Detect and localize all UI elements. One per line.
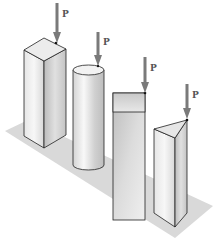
- load-label-2: P: [103, 37, 110, 47]
- load-label-3: P: [150, 63, 157, 73]
- load-arrow-1: P: [53, 3, 69, 43]
- square-prism-column: [24, 38, 66, 148]
- load-arrow-2: P: [94, 32, 110, 66]
- cylinder-column: [73, 65, 104, 170]
- columns-diagram: P P P P: [0, 0, 216, 244]
- load-label-1: P: [62, 9, 69, 19]
- load-arrow-3: P: [141, 57, 157, 93]
- triangular-prism-column: [154, 119, 188, 227]
- load-arrow-4: P: [183, 84, 199, 119]
- load-label-4: P: [192, 90, 199, 100]
- rectangular-prism-column: [113, 92, 146, 220]
